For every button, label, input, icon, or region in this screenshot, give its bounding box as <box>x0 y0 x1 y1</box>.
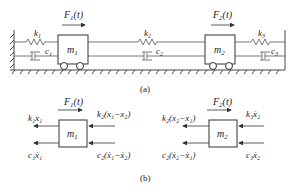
free-body-diagram-m1: F1(t) m1 k₁x₁ c₁ẋ₁ k₂(x₁−x₂) c₂(ẋ₁−ẋ₂) <box>28 96 130 160</box>
svg-text:F2(t): F2(t) <box>212 96 233 109</box>
label-c1: c1 <box>45 46 52 57</box>
svg-text:k₂(x₂−x₁): k₂(x₂−x₁) <box>162 113 195 123</box>
force-f2: F2(t) <box>211 9 234 25</box>
ground <box>10 70 285 74</box>
svg-text:k₂(x₁−x₂): k₂(x₁−x₂) <box>97 109 130 119</box>
svg-text:c₂(ẋ₁−ẋ₂): c₂(ẋ₁−ẋ₂) <box>97 150 130 160</box>
force-f1: F1(t) <box>62 9 85 25</box>
svg-text:F1(t): F1(t) <box>63 9 84 22</box>
svg-text:F2(t): F2(t) <box>212 9 233 22</box>
mass-m1: m1 <box>58 35 88 70</box>
caption-a: (a) <box>140 84 150 94</box>
label-c3: c3 <box>271 46 278 57</box>
spring-k3 <box>235 39 285 45</box>
svg-text:c₃ẋ₂: c₃ẋ₂ <box>246 150 260 160</box>
mass-m2: m2 <box>205 35 235 70</box>
spring-k1 <box>14 39 58 45</box>
caption-b: (b) <box>140 173 151 183</box>
spring-k2 <box>88 39 205 45</box>
label-c2: c2 <box>156 46 163 57</box>
label-k3: k3 <box>258 28 265 39</box>
svg-text:F1(t): F1(t) <box>63 96 84 109</box>
two-mass-spring-damper-diagram: m1 m2 F1(t) F2(t) k1 c1 k2 c2 k3 c3 (a) … <box>0 0 293 195</box>
left-wall <box>10 30 14 70</box>
svg-text:c₂(ẋ₂−ẋ₁): c₂(ẋ₂−ẋ₁) <box>162 150 195 160</box>
damper-c2 <box>88 52 205 60</box>
svg-text:k₁x₁: k₁x₁ <box>28 113 42 123</box>
label-k2: k2 <box>144 28 151 39</box>
free-body-diagram-m2: F2(t) m2 k₂(x₂−x₁) c₂(ẋ₂−ẋ₁) k₃ẋ₂ c₃ẋ₂ <box>162 96 264 160</box>
svg-text:c₁ẋ₁: c₁ẋ₁ <box>28 150 42 160</box>
svg-text:k₃ẋ₂: k₃ẋ₂ <box>246 109 260 119</box>
system-schematic: m1 m2 F1(t) F2(t) k1 c1 k2 c2 k3 c3 (a) <box>10 9 285 94</box>
label-k1: k1 <box>34 28 41 39</box>
